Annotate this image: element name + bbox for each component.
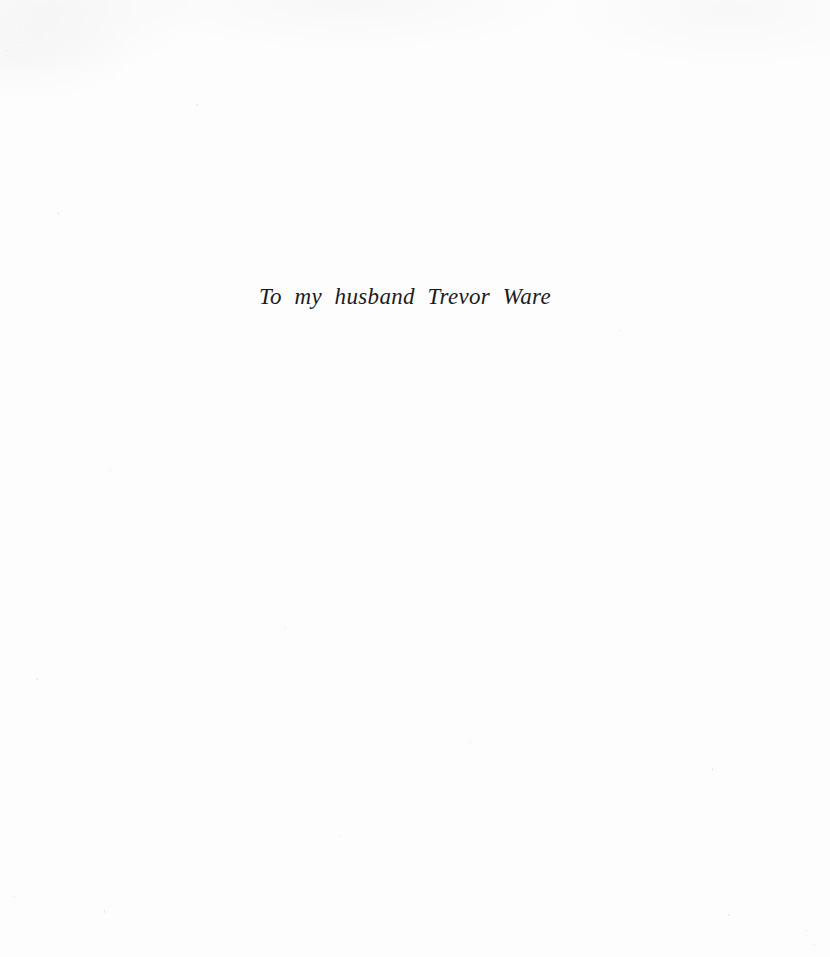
book-dedication-page: To my husband Trevor Ware: [0, 0, 830, 957]
dedication-block: To my husband Trevor Ware: [0, 282, 810, 312]
scan-speckle-layer: [0, 0, 830, 957]
dedication-text: To my husband Trevor Ware: [259, 282, 551, 312]
